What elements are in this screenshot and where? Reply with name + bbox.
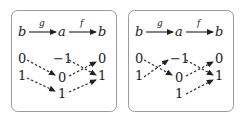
right-col2-neg1: −1: [170, 51, 189, 66]
left-col3-0: 0: [98, 51, 106, 66]
right-col2-0: 0: [175, 70, 183, 85]
right-top-b-source: b: [135, 24, 143, 39]
left-col1-0: 0: [18, 51, 26, 66]
right-top-a: a: [175, 24, 183, 39]
left-col3-1: 1: [98, 68, 106, 83]
right-col3-1: 1: [215, 68, 223, 83]
right-top-b-target: b: [215, 24, 223, 39]
right-col3-0: 0: [215, 51, 223, 66]
right-col2-1: 1: [175, 86, 183, 101]
left-col2-1: 1: [58, 86, 66, 101]
left-col1-1: 1: [18, 68, 26, 83]
left-panel: b g a f b 0 1 −1 0 1 0 1: [12, 11, 117, 112]
left-col2-neg1: −1: [53, 51, 72, 66]
left-top-b-source: b: [18, 24, 26, 39]
right-col1-0: 0: [135, 51, 143, 66]
right-col1-1: 1: [135, 68, 143, 83]
left-label-g: g: [39, 18, 45, 28]
right-panel: b g a f b 0 1 −1 0 1 0 1: [129, 11, 234, 112]
left-top-b-target: b: [98, 24, 106, 39]
left-top-a: a: [58, 24, 66, 39]
right-label-g: g: [157, 18, 163, 28]
left-col2-0: 0: [58, 70, 66, 85]
diagram-canvas: b g a f b 0 1 −1 0 1 0 1 b g a f b 0 1 −: [0, 0, 246, 120]
